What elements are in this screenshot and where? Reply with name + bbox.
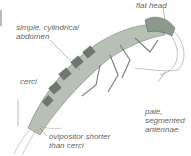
label-cerci: cerci <box>20 77 37 86</box>
leader-abdomen <box>50 40 80 70</box>
leader-antennae <box>158 72 165 82</box>
label-antennae: pale, segmented antennae <box>145 107 185 134</box>
label-ovipositor: ovipositor shorter than cerci <box>49 132 110 150</box>
label-abdomen: simple, cylindrical abdomen <box>16 23 79 41</box>
label-flat-head: flat head <box>136 1 167 10</box>
